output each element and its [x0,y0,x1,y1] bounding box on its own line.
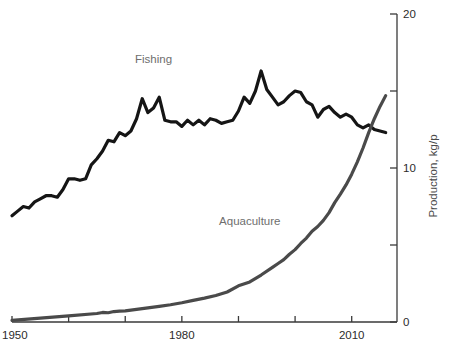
annotation-fishing: Fishing [135,53,172,65]
axes [12,14,397,322]
y-tick-label: 10 [403,162,416,174]
production-line-chart: 195019802010 01020 Production, kg/p Fish… [0,0,449,346]
data-series [12,71,386,320]
y-tick-label: 20 [403,8,416,20]
y-tick-label: 0 [403,316,409,328]
x-axis-tick-labels: 195019802010 [2,329,365,341]
y-axis-tick-labels: 01020 [403,8,416,328]
x-tick-label: 2010 [339,329,365,341]
chart-container: 195019802010 01020 Production, kg/p Fish… [0,0,449,346]
series-line-aquaculture [12,96,386,321]
x-tick-label: 1950 [2,329,28,341]
y-axis-title-text: Production, kg/p [427,134,439,217]
y-axis-title: Production, kg/p [427,134,439,217]
annotation-aquaculture: Aquaculture [219,215,280,227]
series-line-fishing [12,71,386,216]
y-axis-ticks [390,14,397,322]
x-tick-label: 1980 [169,329,195,341]
